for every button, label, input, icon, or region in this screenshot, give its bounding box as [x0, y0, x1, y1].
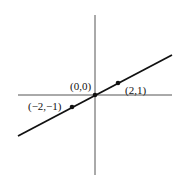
point-2-1	[116, 81, 121, 86]
label-origin: (0,0)	[70, 80, 91, 92]
label-point-2-1: (2,1)	[125, 84, 146, 96]
coordinate-plane	[0, 0, 184, 181]
point-origin	[93, 93, 98, 98]
label-point-neg2-neg1: (−2,−1)	[28, 100, 61, 112]
point-neg2-neg1	[70, 105, 75, 110]
